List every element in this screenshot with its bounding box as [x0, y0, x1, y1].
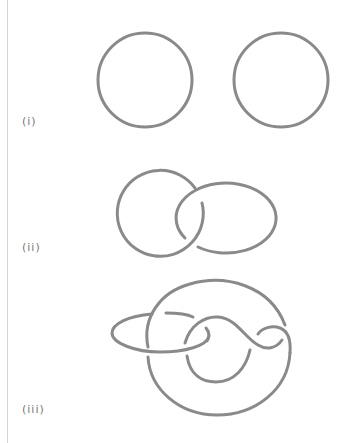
lower-u-curve — [187, 350, 250, 382]
unlink-circle-right — [234, 33, 328, 127]
figure-ii-hopf-link — [117, 170, 276, 256]
inner-strand — [185, 317, 282, 348]
ellipse-main — [112, 314, 209, 352]
twist-loop — [258, 327, 290, 353]
figure-i-unlink — [98, 33, 328, 127]
knot-diagrams — [0, 0, 349, 443]
big-loop-lower — [148, 353, 290, 415]
unlink-circle-left — [98, 33, 192, 127]
hopf-circle — [117, 170, 203, 256]
figure-iii-link — [112, 281, 290, 415]
ellipse-top-segment — [166, 313, 193, 317]
